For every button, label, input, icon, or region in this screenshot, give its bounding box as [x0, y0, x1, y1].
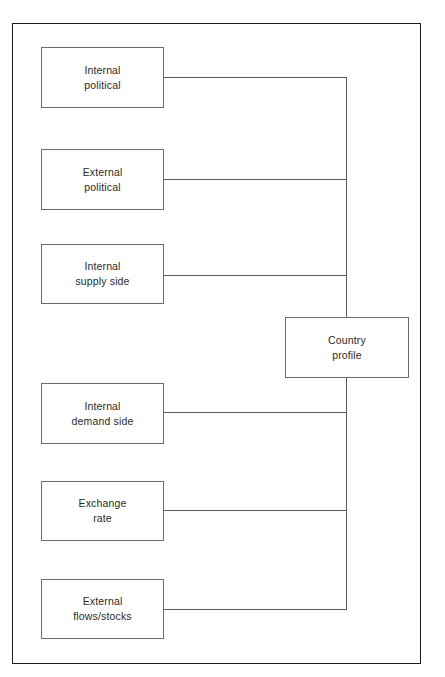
node-internal-demand-side[interactable]: Internal demand side: [41, 383, 164, 444]
figure-frame: Internal political External political In…: [12, 23, 421, 664]
node-internal-demand-side-label: Internal demand side: [72, 399, 134, 429]
node-external-political[interactable]: External political: [41, 149, 164, 210]
node-internal-supply-side[interactable]: Internal supply side: [41, 244, 164, 304]
node-external-flows-stocks-label: External flows/stocks: [73, 594, 131, 624]
node-external-flows-stocks[interactable]: External flows/stocks: [41, 579, 164, 639]
node-exchange-rate-label: Exchange rate: [79, 496, 127, 526]
connector-external-political: [164, 179, 347, 180]
connector-exchange-rate: [164, 510, 347, 511]
node-internal-political[interactable]: Internal political: [41, 47, 164, 108]
node-internal-supply-side-label: Internal supply side: [75, 259, 129, 289]
node-country-profile-label: Country profile: [328, 333, 366, 363]
connector-internal-demand-side: [164, 412, 347, 413]
connector-external-flows-stocks: [164, 609, 347, 610]
connector-internal-political: [164, 77, 347, 78]
node-internal-political-label: Internal political: [84, 63, 120, 93]
diagram-page: Internal political External political In…: [0, 0, 445, 677]
node-exchange-rate[interactable]: Exchange rate: [41, 481, 164, 541]
node-external-political-label: External political: [83, 165, 123, 195]
connector-internal-supply-side: [164, 275, 347, 276]
node-country-profile[interactable]: Country profile: [285, 317, 409, 378]
trunk-line-upper: [346, 77, 347, 317]
